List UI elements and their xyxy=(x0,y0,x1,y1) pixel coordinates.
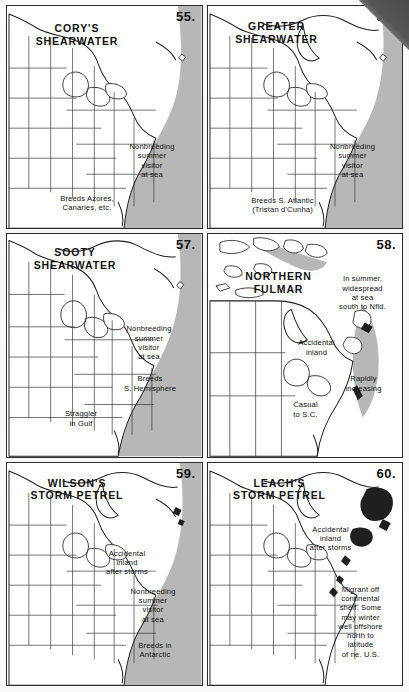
species-title: SOOTY SHEARWATER xyxy=(27,246,123,271)
panel-number: 56. xyxy=(376,9,396,24)
straggler-note: Straggler in Gulf xyxy=(49,409,113,428)
species-title: WILSON'S STORM PETREL xyxy=(27,477,127,502)
species-title: CORY'S SHEARWATER xyxy=(31,22,123,47)
accidental-note: Accidental inland after storms xyxy=(298,525,364,553)
breeding-note: Breeds Azores, Canaries, etc. xyxy=(37,194,137,213)
species-title: LEACH'S STORM PETREL xyxy=(228,477,332,502)
map-panel-56[interactable]: 56. GREATER SHEARWATER Nonbreeding summe… xyxy=(207,5,404,229)
panel-number: 55. xyxy=(176,9,196,24)
map-panel-59[interactable]: 59. WILSON'S STORM PETREL Accidental inl… xyxy=(6,462,203,686)
summer-range-note: In summer, widespread at sea south to Nf… xyxy=(324,274,402,311)
species-title: NORTHERN FULMAR xyxy=(232,270,326,295)
panel-number: 58. xyxy=(376,237,396,252)
ocean-note: Nonbreeding summer visitor at sea xyxy=(320,142,386,179)
breeding-note: Breeds S. Hemisphere xyxy=(111,374,189,393)
map-panel-60[interactable]: 60. LEACH'S STORM PETREL Accidental inla… xyxy=(207,462,404,686)
breeding-note: Breeds in Antarctic xyxy=(123,641,187,660)
panel-number: 57. xyxy=(176,237,196,252)
breeding-note: Breeds S. Atlantic (Tristan d'Cunha) xyxy=(228,196,338,215)
trend-note: Rapidly increasing xyxy=(332,374,396,393)
panel-number: 60. xyxy=(376,466,396,481)
map-panel-57[interactable]: 57. SOOTY SHEARWATER Nonbreeding summer … xyxy=(6,233,203,457)
panel-number: 59. xyxy=(176,466,196,481)
casual-note: Casual to S.C. xyxy=(276,400,336,419)
map-panel-55[interactable]: 55. CORY'S SHEARWATER Nonbreeding summer… xyxy=(6,5,203,229)
ocean-note: Migrant off continental shelf. Some may … xyxy=(324,585,398,659)
species-title: GREATER SHEARWATER xyxy=(228,20,326,45)
ocean-note: Nonbreeding summer visitor at sea xyxy=(115,324,183,361)
accidental-note: Accidental inland xyxy=(286,338,348,357)
map-panel-58[interactable]: 58. NORTHERN FULMAR In summer, widesprea… xyxy=(207,233,404,457)
ocean-note: Nonbreeding summer visitor at sea xyxy=(119,587,187,624)
guide-page: 55. CORY'S SHEARWATER Nonbreeding summer… xyxy=(0,0,409,692)
map-grid: 55. CORY'S SHEARWATER Nonbreeding summer… xyxy=(0,0,409,692)
accidental-note: Accidental inland after storms xyxy=(91,549,163,577)
ocean-note: Nonbreeding summer visitor at sea xyxy=(119,142,185,179)
